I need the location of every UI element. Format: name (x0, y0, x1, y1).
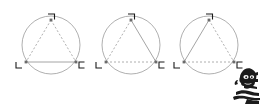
vertex-label-bottom-left (16, 62, 22, 68)
circle-outline (102, 16, 160, 74)
inscribed-triangle-1 (16, 14, 85, 74)
vertex-dot-apex (130, 19, 133, 22)
inscribed-triangle-2 (96, 14, 165, 74)
vertex-dot-bottom-right (75, 61, 78, 64)
triangle-right-edge (131, 20, 156, 62)
circle-outline (180, 16, 238, 74)
vertex-label-bottom-left (174, 62, 180, 68)
vertex-label-bottom-right (159, 62, 165, 68)
vertex-dot-apex (50, 19, 53, 22)
diagram-canvas (0, 0, 261, 104)
vertex-dot-bottom-left (105, 61, 108, 64)
triangle-left-edge (106, 20, 131, 62)
inscribed-triangle-figure-group (0, 0, 261, 104)
ink-sketch-figure (231, 66, 261, 104)
circle-outline (22, 16, 80, 74)
vertex-dot-apex (208, 19, 211, 22)
vertex-label-bottom-left (96, 62, 102, 68)
vertex-dot-bottom-right (233, 61, 236, 64)
triangle-left-edge (184, 20, 209, 62)
triangle-right-edge (209, 20, 234, 62)
vertex-dot-bottom-left (183, 61, 186, 64)
vertex-dot-bottom-left (25, 61, 28, 64)
vertex-label-bottom-right (79, 62, 85, 68)
triangle-left-edge (26, 20, 51, 62)
inscribed-triangle-3 (174, 14, 243, 74)
vertex-dot-bottom-right (155, 61, 158, 64)
triangle-right-edge (51, 20, 76, 62)
